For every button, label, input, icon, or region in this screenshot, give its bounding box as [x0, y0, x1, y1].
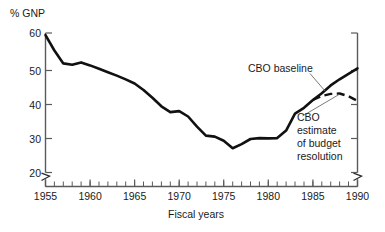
annotation-cbo-estimate-line1: CBO: [297, 111, 320, 123]
x-tick-label-1985: 1985: [301, 190, 325, 202]
y-tick-label-20: 20: [29, 167, 41, 179]
y-tick-label-50: 50: [29, 65, 41, 77]
x-tick-label-1990: 1990: [346, 190, 370, 202]
x-minor-ticks: [46, 182, 358, 187]
chart-container: % GNP 60 50 40 30 20: [0, 0, 385, 232]
line-chart: % GNP 60 50 40 30 20: [0, 0, 385, 232]
x-tick-label-1965: 1965: [123, 190, 147, 202]
right-axis-break-icon: [354, 173, 362, 180]
x-major-ticks: [46, 180, 358, 187]
annotation-cbo-estimate-line3: of budget: [297, 137, 341, 149]
y-axis-unit-label: % GNP: [10, 7, 45, 19]
annotation-cbo-baseline: CBO baseline: [248, 62, 313, 74]
x-tick-label-1975: 1975: [212, 190, 236, 202]
x-tick-label-1955: 1955: [34, 190, 58, 202]
y-axis-break-icon: [42, 173, 50, 180]
x-tick-label-1960: 1960: [78, 190, 102, 202]
cbo-baseline-leader-line: [310, 74, 326, 92]
x-axis-title: Fiscal years: [168, 208, 224, 220]
x-tick-label-1970: 1970: [168, 190, 192, 202]
x-tick-label-1980: 1980: [257, 190, 281, 202]
y-tick-label-40: 40: [29, 99, 41, 111]
annotation-cbo-estimate-line2: estimate: [297, 124, 337, 136]
annotation-cbo-estimate-line4: resolution: [297, 150, 343, 162]
y-tick-label-30: 30: [29, 133, 41, 145]
y-tick-label-60: 60: [29, 27, 41, 39]
